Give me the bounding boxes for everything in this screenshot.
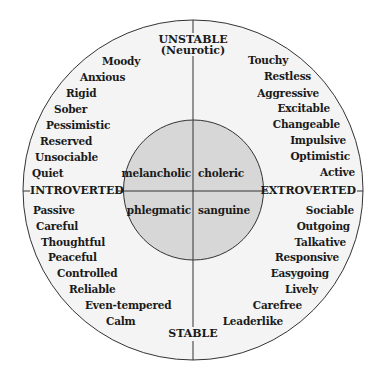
axis-label-neurotic: (Neurotic) — [161, 45, 226, 57]
trait-moody: Moody — [102, 55, 140, 67]
trait-excitable: Excitable — [277, 102, 330, 114]
trait-touchy: Touchy — [248, 54, 288, 66]
trait-carefree: Carefree — [253, 299, 302, 311]
trait-responsive: Responsive — [275, 251, 339, 263]
trait-peaceful: Peaceful — [48, 251, 97, 263]
trait-easygoing: Easygoing — [271, 267, 329, 279]
trait-aggressive: Aggressive — [257, 87, 319, 99]
trait-calm: Calm — [106, 315, 135, 327]
personality-circle-diagram: UNSTABLE (Neurotic) STABLE INTROVERTED E… — [0, 0, 380, 371]
trait-sociable: Sociable — [306, 204, 354, 216]
temperament-melancholic: melancholic — [122, 167, 191, 179]
trait-pessimistic: Pessimistic — [46, 119, 110, 131]
trait-quiet: Quiet — [32, 167, 63, 179]
trait-active: Active — [320, 166, 355, 178]
axis-label-extroverted: EXTROVERTED — [260, 185, 356, 197]
trait-optimistic: Optimistic — [290, 150, 350, 162]
trait-leaderlike: Leaderlike — [223, 315, 283, 327]
trait-outgoing: Outgoing — [297, 220, 350, 232]
trait-talkative: Talkative — [295, 236, 347, 248]
trait-reserved: Reserved — [40, 135, 92, 147]
axis-label-stable: STABLE — [168, 328, 217, 340]
trait-controlled: Controlled — [57, 267, 117, 279]
trait-lively: Lively — [285, 283, 318, 295]
trait-passive: Passive — [33, 204, 75, 216]
temperament-sanguine: sanguine — [198, 204, 250, 216]
trait-rigid: Rigid — [66, 87, 96, 99]
trait-unsociable: Unsociable — [35, 151, 98, 163]
trait-reliable: Reliable — [69, 283, 116, 295]
trait-sober: Sober — [54, 103, 87, 115]
trait-changeable: Changeable — [273, 118, 340, 130]
trait-even-tempered: Even-tempered — [85, 299, 171, 311]
trait-careful: Careful — [36, 220, 78, 232]
trait-anxious: Anxious — [80, 71, 125, 83]
trait-restless: Restless — [264, 70, 311, 82]
trait-thoughtful: Thoughtful — [41, 236, 105, 248]
axis-label-introverted: INTROVERTED — [30, 185, 124, 197]
trait-impulsive: Impulsive — [290, 134, 346, 146]
temperament-phlegmatic: phlegmatic — [127, 204, 191, 216]
temperament-choleric: choleric — [198, 167, 244, 179]
